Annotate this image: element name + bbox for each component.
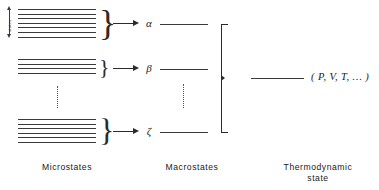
microstate-line bbox=[18, 32, 96, 33]
microstate-line bbox=[18, 133, 96, 134]
microstate-line bbox=[18, 37, 96, 38]
microstate-line bbox=[18, 142, 96, 143]
microstate-bundle-zeta bbox=[18, 119, 96, 142]
microstate-line bbox=[18, 137, 96, 138]
microstate-line bbox=[18, 9, 96, 10]
arrow-shaft bbox=[113, 23, 134, 24]
thermodynamic-state-line bbox=[251, 78, 304, 79]
arrow-head bbox=[133, 128, 139, 134]
arrow-head bbox=[133, 65, 139, 71]
microstate-line bbox=[18, 64, 96, 65]
macrostate-label-alpha: α bbox=[142, 17, 156, 29]
caption-thermodynamic-state: Thermodynamic state bbox=[268, 162, 368, 183]
microstate-line bbox=[18, 27, 96, 28]
macrostate-line-zeta bbox=[160, 132, 208, 133]
arrow-head-up bbox=[7, 6, 11, 10]
brace-zeta: } bbox=[99, 114, 114, 146]
aggregate-bracket bbox=[221, 24, 230, 133]
arrow-shaft bbox=[113, 131, 134, 132]
microstate-bundle-beta bbox=[18, 59, 96, 73]
bracket-mid-point bbox=[221, 75, 225, 81]
brace-beta: } bbox=[99, 56, 110, 78]
microstate-ellipsis bbox=[57, 86, 58, 108]
states-axis-label: states bbox=[7, 20, 12, 32]
arrow-shaft bbox=[113, 68, 134, 69]
microstate-line bbox=[18, 68, 96, 69]
macrostate-ellipsis bbox=[183, 84, 184, 108]
caption-macrostates: Macrostates bbox=[142, 162, 242, 173]
microstate-line bbox=[18, 124, 96, 125]
microstate-line bbox=[18, 18, 96, 19]
figure-canvas: states } α } β } bbox=[0, 0, 379, 190]
microstate-bundle-alpha bbox=[18, 9, 96, 37]
macrostate-line-alpha bbox=[160, 24, 208, 25]
microstate-line bbox=[18, 73, 96, 74]
caption-microstates: Microstates bbox=[17, 162, 117, 173]
arrow-head-down bbox=[7, 34, 11, 38]
macrostate-label-beta: β bbox=[142, 62, 156, 74]
macrostate-label-zeta: ζ bbox=[142, 125, 156, 137]
microstate-line bbox=[18, 59, 96, 60]
arrow-head bbox=[133, 20, 139, 26]
thermodynamic-state-formula: ( P, V, T, … ) bbox=[311, 71, 369, 82]
bracket-bottom-arm bbox=[221, 132, 228, 133]
microstate-line bbox=[18, 128, 96, 129]
microstate-line bbox=[18, 119, 96, 120]
bracket-top-arm bbox=[221, 24, 228, 25]
macrostate-line-beta bbox=[160, 69, 208, 70]
microstate-line bbox=[18, 23, 96, 24]
microstate-line bbox=[18, 14, 96, 15]
